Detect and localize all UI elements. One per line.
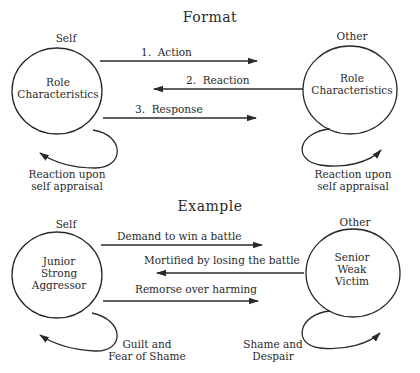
example-other-loop-caption-2: Despair [252, 350, 294, 362]
format-section: Format Self Role Characteristics Reactio… [12, 9, 397, 192]
format-other-loop-caption-2: self appraisal [317, 180, 389, 192]
diagram-canvas: Format Self Role Characteristics Reactio… [0, 0, 420, 373]
example-self-loop-arrow [40, 313, 117, 351]
format-title: Format [183, 9, 237, 25]
example-self-line-1: Junior [42, 255, 76, 267]
example-other-node: Other Senior Weak Victim Shame and Despa… [243, 216, 400, 362]
diagram-svg: Format Self Role Characteristics Reactio… [0, 0, 420, 373]
format-self-line-2: Characteristics [17, 88, 98, 100]
format-self-label: Self [56, 32, 78, 44]
example-arrow-1-label: Demand to win a battle [117, 230, 242, 242]
format-self-loop-caption-1: Reaction upon [29, 168, 106, 180]
example-arrow-2: Mortified by losing the battle [144, 254, 304, 273]
example-other-line-1: Senior [335, 251, 371, 263]
format-arrow-3: 3. Response [103, 103, 256, 118]
format-self-loop-caption-2: self appraisal [31, 180, 103, 192]
example-other-line-3: Victim [334, 275, 369, 287]
format-self-node: Self Role Characteristics Reaction upon … [12, 32, 117, 192]
example-section: Example Self Junior Strong Aggressor Gui… [12, 198, 400, 362]
format-self-line-1: Role [46, 76, 70, 88]
example-arrow-2-label: Mortified by losing the battle [144, 254, 300, 266]
example-arrow-3-label: Remorse over harming [135, 283, 257, 295]
example-self-label: Self [56, 218, 78, 230]
example-title: Example [178, 198, 243, 214]
example-other-loop-caption-1: Shame and [243, 338, 303, 350]
format-other-label: Other [337, 30, 369, 42]
example-arrow-3: Remorse over harming [103, 283, 258, 301]
format-other-line-1: Role [340, 72, 364, 84]
example-self-loop-caption-1: Guilt and [122, 338, 171, 350]
format-arrow-1-label: 1. Action [141, 46, 192, 58]
example-other-line-2: Weak [338, 263, 367, 275]
example-self-line-2: Strong [41, 267, 78, 279]
example-self-loop-caption-2: Fear of Shame [108, 350, 185, 362]
format-self-loop-arrow [40, 130, 117, 168]
format-arrow-3-label: 3. Response [135, 103, 203, 115]
format-other-loop-arrow [302, 129, 381, 166]
example-self-line-3: Aggressor [31, 279, 87, 291]
format-other-node: Other Role Characteristics Reaction upon… [302, 30, 397, 192]
format-other-line-2: Characteristics [311, 84, 392, 96]
example-other-loop-arrow [302, 311, 380, 349]
format-arrow-1: 1. Action [100, 46, 257, 61]
format-arrow-2: 2. Reaction [154, 74, 303, 89]
example-other-label: Other [340, 216, 372, 228]
example-arrow-1: Demand to win a battle [101, 230, 262, 245]
format-arrow-2-label: 2. Reaction [186, 74, 250, 86]
format-other-loop-caption-1: Reaction upon [315, 168, 392, 180]
